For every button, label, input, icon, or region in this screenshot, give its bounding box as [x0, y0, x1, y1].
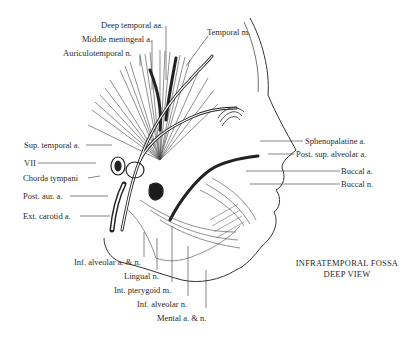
label-lingual-nerve: Lingual n. — [124, 271, 159, 281]
label-sphenopalatine-artery: Sphenopalatine a. — [305, 136, 365, 146]
figure-title-line1: INFRATEMPORAL FOSSA — [282, 258, 412, 269]
label-post-auricular-artery: Post. aur. a. — [23, 191, 62, 201]
label-sup-temporal-artery: Sup. temporal a. — [24, 140, 80, 150]
figure-title-line2: DEEP VIEW — [282, 269, 412, 280]
label-inf-alveolar-nerve: Inf. alveolar n. — [137, 299, 187, 309]
label-inf-alveolar-artery-nerve: Inf. alveolar a. & n. — [74, 257, 141, 267]
label-mental-artery-nerve: Mental a. & n. — [157, 313, 206, 323]
label-chorda-tympani: Chorda tympani — [23, 173, 78, 183]
label-middle-meningeal-artery: Middle meningeal a. — [82, 34, 152, 44]
label-auriculotemporal-nerve: Auriculotemporal n. — [63, 48, 132, 58]
figure-title: INFRATEMPORAL FOSSA DEEP VIEW — [282, 258, 412, 280]
label-temporal-muscle: Temporal m. — [207, 27, 250, 37]
anatomy-figure: Deep temporal aa. Middle meningeal a. Au… — [0, 0, 416, 345]
label-buccal-artery: Buccal a. — [341, 166, 373, 176]
label-ext-carotid-artery: Ext. carotid a. — [23, 211, 71, 221]
label-int-pterygoid-muscle: Int. pterygoid m. — [114, 285, 171, 295]
label-buccal-nerve: Buccal n. — [341, 179, 373, 189]
label-deep-temporal-arteries: Deep temporal aa. — [101, 20, 163, 30]
label-post-sup-alveolar-artery: Post. sup. alveolar a. — [296, 149, 366, 159]
label-facial-nerve-vii: VII — [24, 158, 36, 168]
